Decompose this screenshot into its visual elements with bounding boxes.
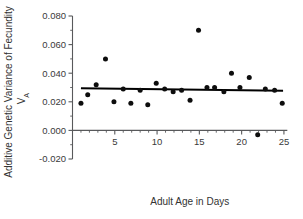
data-point (188, 98, 193, 103)
data-point (154, 81, 159, 86)
data-point (204, 85, 209, 90)
data-point (103, 56, 108, 61)
data-point (138, 88, 143, 93)
x-tick-label: 10 (152, 136, 163, 147)
y-tick-label: 0.020 (42, 96, 66, 107)
data-point (272, 88, 277, 93)
scatter-plot-figure: -0.0200.0000.0200.0400.0600.080510152025… (0, 0, 303, 219)
x-tick-label: 25 (279, 136, 290, 147)
y-axis-symbol-subscript: A (23, 93, 30, 98)
y-axis-title-group: Additive Genetic Variance of FecundityVA (3, 6, 30, 178)
y-tick-label: 0.040 (42, 68, 66, 79)
data-point (229, 71, 234, 76)
data-point (145, 102, 150, 107)
x-tick-label: 20 (236, 136, 247, 147)
data-point (263, 86, 268, 91)
x-tick-label: 5 (112, 136, 117, 147)
data-point (196, 28, 201, 33)
data-point (121, 86, 126, 91)
data-point (171, 89, 176, 94)
y-axis-title: Additive Genetic Variance of Fecundity (3, 6, 14, 178)
data-point (255, 132, 260, 137)
data-point (237, 85, 242, 90)
data-point (212, 85, 217, 90)
chart-canvas: -0.0200.0000.0200.0400.0600.080510152025… (0, 0, 303, 219)
data-point (280, 101, 285, 106)
data-point (247, 75, 252, 80)
data-point (128, 101, 133, 106)
y-tick-label: 0.060 (42, 39, 66, 50)
data-point (78, 101, 83, 106)
data-point (85, 92, 90, 97)
y-tick-label: -0.020 (39, 153, 66, 164)
data-point (94, 82, 99, 87)
data-point (179, 88, 184, 93)
y-tick-label: 0.080 (42, 10, 66, 21)
y-tick-label: 0.000 (42, 125, 66, 136)
x-axis-title: Adult Age in Days (150, 196, 229, 207)
data-point (111, 99, 116, 104)
x-tick-label: 15 (194, 136, 205, 147)
data-point (162, 86, 167, 91)
data-point (221, 89, 226, 94)
